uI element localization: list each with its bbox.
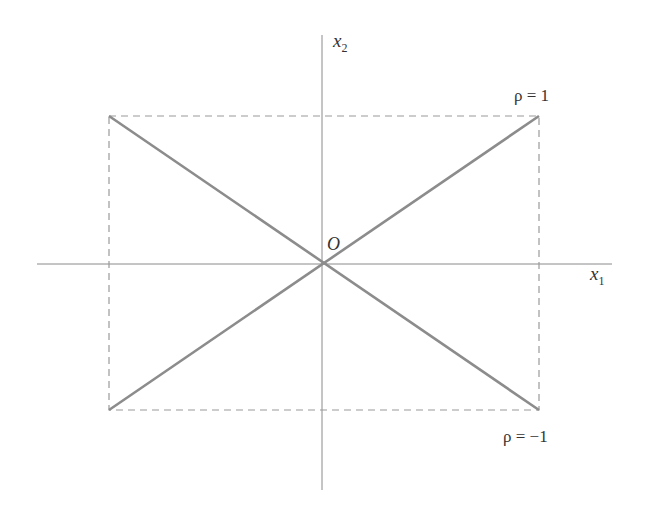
- origin-label: O: [327, 234, 340, 254]
- x1-axis-label: x1: [589, 263, 604, 288]
- x2-axis-label: x2: [332, 30, 347, 55]
- correlation-diagram: x2 x1 O ρ = 1 ρ = −1: [0, 0, 645, 515]
- rho-plus-one-label: ρ = 1: [514, 86, 549, 105]
- rho-minus-one-label: ρ = −1: [503, 427, 548, 446]
